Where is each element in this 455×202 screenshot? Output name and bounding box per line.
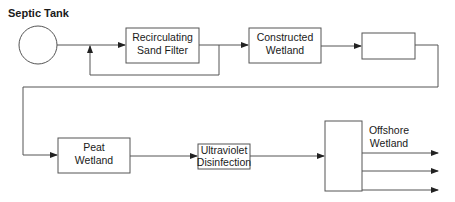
septic-tank-node	[19, 26, 57, 64]
peat-label-line2: Wetland	[58, 154, 130, 167]
cw-label: Constructed Wetland	[249, 31, 321, 57]
flow-diagram	[0, 0, 455, 202]
peat-label: Peat Wetland	[58, 141, 130, 167]
offshore-label-line1: Offshore	[364, 124, 414, 137]
uv-label: Ultraviolet Disinfection	[196, 144, 252, 168]
rsf-label-line1: Recirculating	[126, 31, 199, 44]
uv-label-line2: Disinfection	[196, 156, 252, 168]
offshore-wetland-box	[325, 121, 362, 191]
septic-tank-label: Septic Tank	[8, 7, 69, 19]
offshore-label-line2: Wetland	[364, 137, 414, 150]
peat-label-line1: Peat	[58, 141, 130, 154]
offshore-label: Offshore Wetland	[364, 124, 414, 150]
uv-label-line1: Ultraviolet	[196, 144, 252, 156]
cw-label-line1: Constructed	[249, 31, 321, 44]
cw-label-line2: Wetland	[249, 44, 321, 57]
unlabeled-box	[362, 33, 415, 59]
rsf-label-line2: Sand Filter	[126, 44, 199, 57]
rsf-label: Recirculating Sand Filter	[126, 31, 199, 57]
